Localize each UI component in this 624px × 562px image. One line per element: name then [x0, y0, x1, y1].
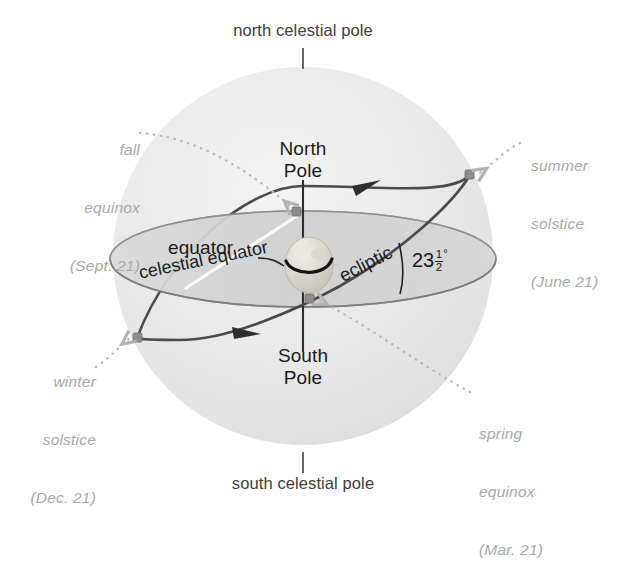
earth-globe [285, 237, 333, 293]
marker-summer-solstice [465, 170, 474, 179]
north-pole-label-line1: North [243, 138, 363, 159]
tilt-angle-label: 23 1 2 ° [412, 248, 448, 272]
south-pole-label-line2: Pole [243, 367, 363, 388]
tilt-angle-numerator: 1 [435, 249, 443, 262]
summer-solstice-line1: summer [531, 156, 624, 175]
tilt-angle-fraction: 1 2 [435, 249, 443, 273]
fall-equinox-line2: equinox [12, 198, 140, 217]
south-pole-label-line1: South [243, 345, 363, 366]
marker-fall-equinox [292, 207, 301, 216]
fall-equinox-line1: fall [12, 140, 140, 159]
spring-equinox-line2: equinox [479, 482, 599, 501]
north-celestial-pole-label: north celestial pole [163, 21, 443, 39]
north-pole-label-line2: Pole [243, 160, 363, 181]
marker-spring-equinox [305, 294, 314, 303]
fall-equinox-label: fall equinox (Sept. 21) [12, 101, 140, 314]
tilt-angle-denominator: 2 [435, 262, 443, 274]
winter-solstice-line1: winter [0, 372, 96, 391]
fall-equinox-line3: (Sept. 21) [12, 256, 140, 275]
winter-solstice-label: winter solstice (Dec. 21) [0, 333, 96, 546]
degree-symbol: ° [443, 247, 447, 259]
summer-solstice-line3: (June 21) [531, 272, 624, 291]
leader-winter-solstice [96, 338, 130, 367]
spring-equinox-line3: (Mar. 21) [479, 540, 599, 559]
summer-solstice-line2: solstice [531, 214, 624, 233]
leader-summer-solstice [478, 143, 520, 174]
south-celestial-pole-label: south celestial pole [163, 474, 443, 492]
tilt-angle-whole: 23 [412, 249, 434, 271]
winter-solstice-line3: (Dec. 21) [0, 488, 96, 507]
spring-equinox-line1: spring [479, 424, 599, 443]
spring-equinox-label: spring equinox (Mar. 21) [479, 385, 599, 562]
summer-solstice-label: summer solstice (June 21) [531, 117, 624, 330]
winter-solstice-line2: solstice [0, 430, 96, 449]
marker-winter-solstice [133, 333, 142, 342]
